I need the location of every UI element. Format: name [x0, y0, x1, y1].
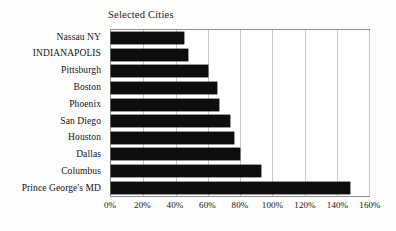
category-label: Columbus [0, 163, 106, 180]
value-axis-tick-label: 140% [327, 200, 348, 210]
value-axis-tick-label: 100% [262, 200, 283, 210]
bar [111, 132, 234, 144]
value-axis-tick-label: 20% [134, 200, 151, 210]
value-axis-tick-label: 160% [359, 200, 380, 210]
value-axis-tick-label: 120% [294, 200, 315, 210]
category-label: Houston [0, 130, 106, 147]
value-axis-tick-label: 40% [167, 200, 184, 210]
value-axis-tick-label: 60% [199, 200, 216, 210]
bar-row [111, 146, 369, 163]
category-label: Nassau NY [0, 29, 106, 46]
bar [111, 148, 240, 160]
value-axis-tick-label: 0% [104, 200, 116, 210]
category-label: INDIANAPOLIS [0, 46, 106, 63]
bar [111, 99, 219, 111]
bar [111, 182, 350, 194]
bar-row [111, 113, 369, 130]
bar-row [111, 30, 369, 47]
bar-row [111, 130, 369, 147]
bar [111, 49, 188, 61]
category-axis-labels: Nassau NYINDIANAPOLISPittsburghBostonPho… [0, 29, 106, 197]
category-label: Dallas [0, 147, 106, 164]
bar-row [111, 47, 369, 64]
bar [111, 165, 261, 177]
bar-row [111, 63, 369, 80]
gridline [369, 30, 370, 196]
category-label: Phoenix [0, 96, 106, 113]
bar [111, 115, 230, 127]
bar-row [111, 96, 369, 113]
category-label: Boston [0, 79, 106, 96]
bar [111, 65, 208, 77]
bar-series [111, 30, 369, 196]
plot-area [110, 29, 370, 197]
bar [111, 82, 217, 94]
category-label: San Diego [0, 113, 106, 130]
bar [111, 32, 184, 44]
bar-row [111, 80, 369, 97]
category-label: Prince George's MD [0, 180, 106, 197]
value-axis-ticks: 0%20%40%60%80%100%120%140%160% [110, 200, 370, 216]
bar-chart: Selected Cities Nassau NYINDIANAPOLISPit… [0, 0, 396, 231]
value-axis-tick-label: 80% [232, 200, 249, 210]
chart-title: Selected Cities [108, 9, 174, 20]
category-label: Pittsburgh [0, 63, 106, 80]
bar-row [111, 163, 369, 180]
bar-row [111, 179, 369, 196]
